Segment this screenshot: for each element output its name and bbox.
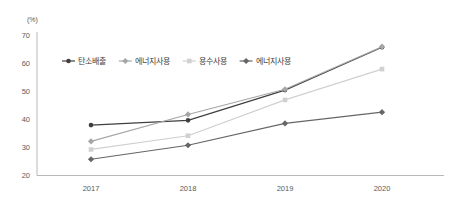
- series-group: [89, 45, 385, 127]
- data-point-marker: [282, 86, 288, 92]
- x-tick-label: 2020: [374, 184, 391, 193]
- y-tick-label: 60: [22, 59, 30, 68]
- chart-legend: 탄소배출에너지사용용수사용에너지사용: [62, 56, 291, 66]
- series-group: [89, 67, 385, 152]
- data-point-marker: [88, 156, 94, 162]
- y-axis-unit-label: (%): [27, 16, 38, 24]
- legend-swatch-marker: [66, 59, 71, 64]
- data-point-marker: [380, 67, 385, 72]
- legend-label: 에너지사용: [135, 56, 170, 66]
- data-point-marker: [283, 98, 288, 103]
- series-line: [91, 69, 382, 149]
- y-tick-label: 30: [22, 143, 30, 152]
- x-axis-tick-labels: 2017 2018 2019 2020: [83, 184, 391, 193]
- legend-swatch-marker: [122, 58, 128, 64]
- data-point-marker: [186, 118, 191, 123]
- data-point-marker: [89, 123, 94, 128]
- data-point-marker: [88, 138, 94, 144]
- series-group: [88, 109, 385, 162]
- data-point-marker: [185, 142, 191, 148]
- y-tick-label: 40: [22, 115, 30, 124]
- x-tick-label: 2017: [83, 184, 100, 193]
- legend-item[interactable]: 용수사용: [183, 57, 227, 66]
- y-tick-label: 50: [22, 87, 30, 96]
- plot-series-layer: [88, 44, 385, 163]
- legend-swatch-marker: [243, 58, 249, 64]
- legend-swatch-marker: [187, 59, 192, 64]
- y-tick-label: 20: [22, 171, 30, 180]
- data-point-marker: [89, 147, 94, 152]
- x-tick-label: 2018: [180, 184, 197, 193]
- y-tick-label: 70: [22, 31, 30, 40]
- line-chart: (%) 70 60 50 40 30 20 2017 2018 2019 202…: [0, 0, 451, 215]
- data-point-marker: [186, 133, 191, 138]
- y-axis-tick-labels: 70 60 50 40 30 20: [22, 31, 30, 180]
- legend-label: 용수사용: [199, 57, 227, 66]
- legend-item[interactable]: 에너지사용: [240, 56, 291, 66]
- legend-label: 에너지사용: [256, 56, 291, 66]
- series-line: [91, 112, 382, 159]
- legend-item[interactable]: 에너지사용: [119, 56, 170, 66]
- x-tick-label: 2019: [277, 184, 294, 193]
- series-group: [88, 44, 385, 145]
- chart-canvas: (%) 70 60 50 40 30 20 2017 2018 2019 202…: [0, 0, 451, 215]
- legend-label: 탄소배출: [78, 56, 106, 66]
- data-point-marker: [185, 111, 191, 117]
- legend-item[interactable]: 탄소배출: [62, 56, 106, 66]
- data-point-marker: [379, 109, 385, 115]
- data-point-marker: [282, 120, 288, 126]
